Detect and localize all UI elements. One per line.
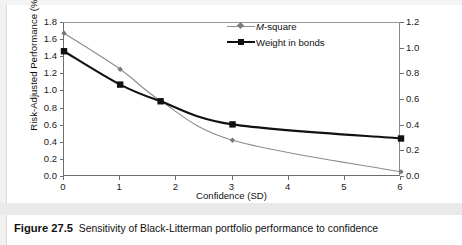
left-axis-tick-label: 0.8 [31,103,57,113]
left-axis-tick-label: 0.0 [31,171,57,181]
data-point-marker [61,48,67,54]
right-axis-tick-label: 0.0 [406,171,432,181]
chart-panel: Risk-Adjusted Performance (%) 0.00.20.40… [8,6,454,202]
right-axis-tick-mark [400,99,404,100]
x-axis-tick-mark [119,176,120,180]
left-axis-tick-mark [60,159,64,160]
legend-item-weight-in-bonds: Weight in bonds [226,34,386,50]
series-line-1 [64,33,401,172]
square-marker-icon [238,39,245,46]
left-axis-tick-mark [60,56,64,57]
chart-legend: M-square Weight in bonds [226,18,386,50]
legend-label-m-square: M-square [256,21,297,32]
legend-label-weight-in-bonds: Weight in bonds [256,37,325,48]
left-axis-tick-label: 1.8 [31,17,57,27]
caption-separator-band [0,203,462,215]
data-point-marker [398,169,403,174]
right-axis-tick-mark [400,22,404,23]
legend-swatch-weight-in-bonds [226,36,256,48]
left-axis-tick-mark [60,90,64,91]
legend-label-m-square-italic: M [256,21,264,32]
right-axis-tick-label: 1.0 [406,43,432,53]
figure-caption-text: Sensitivity of Black-Litterman portfolio… [79,223,378,234]
x-axis-tick-mark [288,176,289,180]
data-point-marker [117,81,123,87]
left-axis-tick-label: 1.6 [31,34,57,44]
figure-caption: Figure 27.5 Sensitivity of Black-Litterm… [14,222,454,234]
right-axis-tick-label: 0.6 [406,94,432,104]
x-axis-tick-mark [175,176,176,180]
right-axis-tick-mark [400,125,404,126]
left-axis-tick-mark [60,73,64,74]
data-point-marker [230,138,235,143]
right-axis-tick-label: 0.8 [406,68,432,78]
x-axis-tick-mark [400,176,401,180]
left-axis-tick-mark [60,125,64,126]
x-axis-title: Confidence (SD) [63,190,400,201]
right-axis-tick-mark [400,73,404,74]
right-axis-tick-label: 0.2 [406,145,432,155]
figure-number: Figure 27.5 [14,222,73,234]
left-axis-tick-mark [60,108,64,109]
page-edge-top [0,0,462,5]
x-axis-tick-mark [344,176,345,180]
right-axis-tick-mark [400,48,404,49]
data-point-marker [157,98,163,104]
right-axis-tick-mark [400,150,404,151]
data-point-marker [229,121,235,127]
legend-item-m-square: M-square [226,18,386,34]
left-axis-tick-mark [60,142,64,143]
left-axis-tick-label: 1.2 [31,68,57,78]
data-point-marker [61,31,66,36]
right-axis-tick-label: 1.2 [406,17,432,27]
legend-label-m-square-rest: -square [264,21,297,32]
figure-container: Risk-Adjusted Performance (%) 0.00.20.40… [0,0,462,245]
x-axis-tick-mark [63,176,64,180]
legend-swatch-m-square [226,20,256,32]
left-axis-tick-mark [60,22,64,23]
right-axis-tick-label: 0.4 [406,120,432,130]
left-axis-tick-label: 1.4 [31,51,57,61]
left-axis-tick-label: 0.2 [31,154,57,164]
left-axis-tick-label: 1.0 [31,85,57,95]
x-axis-tick-mark [232,176,233,180]
left-axis-tick-label: 0.6 [31,120,57,130]
data-point-marker [398,135,404,141]
left-axis-tick-mark [60,39,64,40]
left-axis-tick-label: 0.4 [31,137,57,147]
diamond-marker-icon [237,22,244,29]
